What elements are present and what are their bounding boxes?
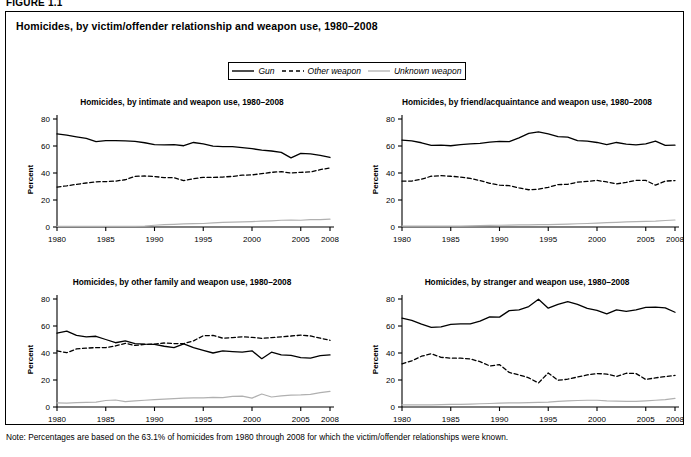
svg-text:1990: 1990: [491, 415, 509, 424]
plot-area-intimate: 0204060801980198519901995200020052008: [22, 97, 342, 252]
dashed-line-icon: [282, 68, 304, 74]
svg-text:2005: 2005: [292, 235, 310, 244]
series-line-other-weapon: [57, 335, 330, 353]
light-line-icon: [368, 68, 390, 74]
svg-text:1995: 1995: [539, 235, 557, 244]
series-line-other-weapon: [402, 176, 675, 190]
svg-text:20: 20: [41, 196, 50, 205]
svg-text:1985: 1985: [442, 235, 460, 244]
legend-label-unknown-weapon: Unknown weapon: [394, 66, 462, 76]
svg-text:1980: 1980: [393, 235, 411, 244]
svg-text:2000: 2000: [243, 235, 261, 244]
legend-item-unknown-weapon: Unknown weapon: [368, 66, 462, 76]
svg-text:80: 80: [386, 295, 395, 304]
svg-text:0: 0: [391, 223, 396, 232]
svg-text:2008: 2008: [666, 235, 684, 244]
svg-text:1985: 1985: [97, 235, 115, 244]
legend-label-gun: Gun: [258, 66, 274, 76]
series-line-unknown-weapon: [402, 398, 675, 404]
svg-text:20: 20: [386, 376, 395, 385]
svg-text:1995: 1995: [194, 235, 212, 244]
svg-text:2005: 2005: [292, 415, 310, 424]
svg-text:1980: 1980: [48, 415, 66, 424]
legend-item-gun: Gun: [232, 66, 274, 76]
panel-friend-acquaintance: Homicides, by friend/acquaintance and we…: [367, 97, 687, 252]
figure-title: Homicides, by victim/offender relationsh…: [16, 20, 378, 32]
svg-text:80: 80: [41, 295, 50, 304]
svg-text:40: 40: [386, 349, 395, 358]
plot-area-stranger: 0204060801980198519901995200020052008: [367, 277, 687, 432]
svg-text:2000: 2000: [243, 415, 261, 424]
series-line-unknown-weapon: [57, 219, 330, 226]
svg-text:1985: 1985: [97, 415, 115, 424]
svg-text:40: 40: [41, 349, 50, 358]
svg-text:2008: 2008: [321, 235, 339, 244]
series-line-unknown-weapon: [57, 391, 330, 403]
svg-text:60: 60: [386, 322, 395, 331]
svg-text:2000: 2000: [588, 235, 606, 244]
svg-text:2000: 2000: [588, 415, 606, 424]
svg-text:20: 20: [386, 196, 395, 205]
svg-text:2008: 2008: [321, 415, 339, 424]
svg-text:40: 40: [41, 169, 50, 178]
svg-text:1985: 1985: [442, 415, 460, 424]
svg-text:0: 0: [46, 223, 51, 232]
series-line-gun: [402, 299, 675, 327]
svg-text:2005: 2005: [637, 415, 655, 424]
svg-text:1990: 1990: [491, 235, 509, 244]
svg-text:1990: 1990: [146, 235, 164, 244]
svg-text:80: 80: [386, 115, 395, 124]
series-line-unknown-weapon: [402, 220, 675, 226]
svg-text:1995: 1995: [539, 415, 557, 424]
series-line-gun: [402, 132, 675, 146]
svg-text:20: 20: [41, 376, 50, 385]
solid-line-icon: [232, 68, 254, 74]
figure-note: Note: Percentages are based on the 63.1%…: [6, 432, 508, 442]
svg-text:1995: 1995: [194, 415, 212, 424]
legend-label-other-weapon: Other weapon: [308, 66, 361, 76]
legend-item-other-weapon: Other weapon: [282, 66, 361, 76]
svg-text:1980: 1980: [393, 415, 411, 424]
series-line-other-weapon: [57, 168, 330, 187]
svg-text:60: 60: [41, 142, 50, 151]
panel-stranger: Homicides, by stranger and weapon use, 1…: [367, 277, 687, 432]
svg-text:60: 60: [41, 322, 50, 331]
svg-text:1990: 1990: [146, 415, 164, 424]
svg-text:0: 0: [46, 403, 51, 412]
plot-area-friend-acquaintance: 0204060801980198519901995200020052008: [367, 97, 687, 252]
panel-other-family: Homicides, by other family and weapon us…: [22, 277, 342, 432]
series-line-other-weapon: [402, 354, 675, 383]
svg-text:2008: 2008: [666, 415, 684, 424]
svg-text:80: 80: [41, 115, 50, 124]
figure-label: FIGURE 1.1: [6, 0, 62, 8]
svg-text:40: 40: [386, 169, 395, 178]
svg-text:0: 0: [391, 403, 396, 412]
svg-text:1980: 1980: [48, 235, 66, 244]
svg-text:60: 60: [386, 142, 395, 151]
series-line-gun: [57, 134, 330, 158]
panel-intimate: Homicides, by intimate and weapon use, 1…: [22, 97, 342, 252]
plot-area-other-family: 0204060801980198519901995200020052008: [22, 277, 342, 432]
svg-text:2005: 2005: [637, 235, 655, 244]
chart-legend: Gun Other weapon Unknown weapon: [228, 62, 466, 80]
series-line-gun: [57, 331, 330, 359]
